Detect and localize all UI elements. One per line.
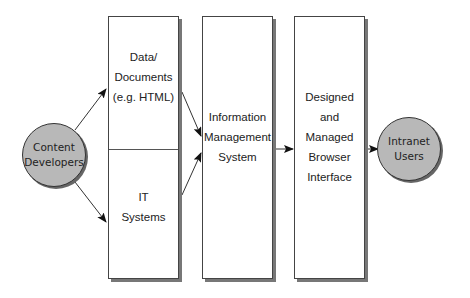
arrow-developers-to-it-systems bbox=[75, 182, 106, 222]
arrow-documents-to-ims bbox=[182, 92, 201, 136]
arrow-developers-to-documents bbox=[75, 89, 106, 130]
browser-line-1: Designed bbox=[294, 87, 365, 107]
browser-line-2: and bbox=[294, 107, 365, 127]
browser-line-5: Interface bbox=[294, 167, 365, 187]
content-developers-label-1: Content bbox=[24, 140, 83, 155]
content-developers-label-2: Developers bbox=[24, 155, 83, 170]
arrow-it-systems-to-ims bbox=[182, 153, 201, 195]
data-documents-line-1: Data/ bbox=[108, 47, 179, 67]
intranet-users-label-1: Intranet bbox=[388, 134, 430, 149]
it-systems-line-1: IT bbox=[108, 187, 179, 207]
ims-line-2: Management bbox=[202, 127, 273, 147]
it-systems-line-2: Systems bbox=[108, 207, 179, 227]
sources-divider bbox=[109, 149, 178, 150]
data-documents-node: Data/ Documents (e.g. HTML) bbox=[108, 47, 179, 107]
data-documents-line-2: Documents bbox=[108, 67, 179, 87]
intranet-users-label-2: Users bbox=[388, 149, 430, 164]
data-documents-line-3: (e.g. HTML) bbox=[108, 87, 179, 107]
it-systems-node: IT Systems bbox=[108, 187, 179, 227]
intranet-users-node: Intranet Users bbox=[377, 117, 441, 181]
ims-line-3: System bbox=[202, 147, 273, 167]
content-developers-node: Content Developers bbox=[22, 123, 86, 187]
browser-interface-node: Designed and Managed Browser Interface bbox=[294, 87, 365, 187]
ims-node: Information Management System bbox=[202, 107, 273, 167]
ims-line-1: Information bbox=[202, 107, 273, 127]
browser-line-3: Managed bbox=[294, 127, 365, 147]
browser-line-4: Browser bbox=[294, 147, 365, 167]
